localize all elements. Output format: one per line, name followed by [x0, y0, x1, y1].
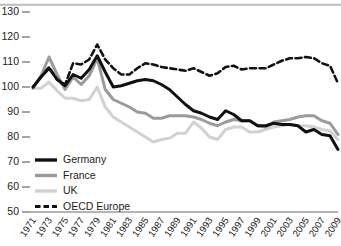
- legend-label-oecd-europe: OECD Europe: [63, 200, 130, 212]
- legend-label-germany: Germany: [63, 153, 107, 165]
- y-tick-label: 130: [1, 5, 19, 17]
- legend-label-uk: UK: [63, 184, 78, 196]
- x-tick-label: 2001: [258, 215, 279, 239]
- y-tick-label: 60: [7, 180, 19, 192]
- x-tick-label: 1995: [210, 215, 231, 239]
- x-tick-label: 1989: [162, 215, 183, 239]
- series-group: [33, 45, 338, 150]
- y-tick-label: 50: [7, 205, 19, 217]
- y-tick-label: 110: [2, 55, 19, 67]
- y-tick-label: 120: [1, 30, 19, 42]
- y-tick-label: 90: [7, 105, 19, 117]
- x-tick-label: 1979: [81, 215, 102, 239]
- chart-legend: GermanyFranceUKOECD Europe: [35, 153, 130, 212]
- x-tick-label: 1985: [130, 215, 151, 239]
- y-tick-label: 70: [7, 155, 19, 167]
- x-tick-label: 1993: [194, 215, 215, 239]
- y-tick-label: 100: [1, 80, 19, 92]
- x-tick-label: 1973: [33, 215, 54, 239]
- series-line-france: [33, 57, 338, 135]
- x-tick-label: 2005: [290, 215, 311, 239]
- y-tick-label: 80: [7, 130, 19, 142]
- x-tick-label: 1977: [65, 215, 86, 239]
- x-tick-label: 1981: [97, 215, 118, 239]
- x-tick-label: 2009: [322, 215, 341, 239]
- line-chart: 5060708090100110120130197119731975197719…: [0, 0, 341, 246]
- series-line-uk: [33, 82, 338, 142]
- x-tick-label: 2007: [306, 215, 327, 239]
- y-axis: 5060708090100110120130: [1, 5, 30, 217]
- x-tick-label: 1997: [226, 215, 247, 239]
- x-axis: 1971197319751977197919811983198519871989…: [17, 215, 341, 239]
- x-tick-label: 1971: [17, 215, 38, 239]
- x-tick-label: 1991: [178, 215, 199, 239]
- chart-container: 5060708090100110120130197119731975197719…: [0, 0, 341, 246]
- x-tick-label: 1999: [242, 215, 263, 239]
- x-tick-label: 1975: [49, 215, 70, 239]
- legend-label-france: France: [63, 169, 96, 181]
- x-tick-label: 1987: [146, 215, 167, 239]
- x-tick-label: 1983: [114, 215, 135, 239]
- x-tick-label: 2003: [274, 215, 295, 239]
